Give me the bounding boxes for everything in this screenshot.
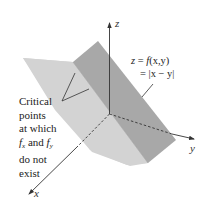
annotation-line-4: fx and fy	[19, 136, 57, 154]
critical-points-annotation: Critical points at which fx and fy do no…	[19, 95, 57, 180]
equation-line-1: z = f(x,y)	[131, 56, 174, 67]
pointer-line-equation	[142, 84, 153, 97]
annotation-line-1: Critical	[19, 95, 57, 109]
equation-label: z = f(x,y) = |x − y|	[131, 56, 174, 79]
equation-args: (x,y)	[149, 55, 169, 66]
equation-line-2: = |x − y|	[140, 69, 174, 80]
y-axis-label: y	[190, 143, 195, 154]
y-axis	[172, 134, 194, 139]
partial-fy-sub: y	[50, 142, 53, 150]
annotation-line-6: exist	[19, 167, 57, 181]
annotation-and: and	[25, 136, 46, 148]
equation-equals: =	[135, 55, 146, 66]
annotation-line-3: at which	[19, 122, 57, 136]
annotation-line-2: points	[19, 109, 57, 123]
z-axis-label: z	[115, 18, 119, 29]
annotation-line-5: do not	[19, 153, 57, 167]
x-axis-label: x	[34, 188, 39, 199]
